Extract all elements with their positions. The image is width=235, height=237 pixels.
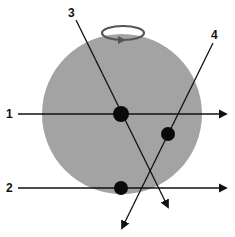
ray-label-4: 4 <box>211 28 218 42</box>
ray-label-1: 1 <box>6 107 13 121</box>
intersection-1-3 <box>113 106 129 122</box>
ray-label-2: 2 <box>6 181 13 195</box>
diagram-canvas: 1234 <box>0 0 235 237</box>
sphere-diagram: 1234 <box>0 0 235 237</box>
point-on-2 <box>114 181 128 195</box>
ray-label-3: 3 <box>68 6 75 20</box>
point-on-4 <box>161 127 175 141</box>
